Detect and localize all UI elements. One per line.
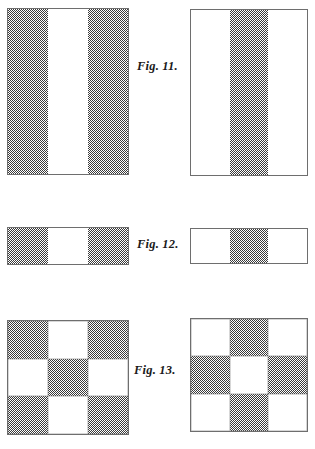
fig12-left-panel-cell-0-shaded — [8, 228, 48, 264]
fig13-left-panel-cell-2-shaded — [88, 321, 128, 359]
fig11-right-panel-cell-1-shaded — [230, 10, 269, 175]
fig12-left-panel-cell-1-white — [48, 228, 88, 264]
fig12-left-panel-cell-2-shaded — [88, 228, 128, 264]
fig11-right-panel-cell-2-white — [268, 10, 307, 175]
fig13-left-panel-cell-5-white — [88, 359, 128, 397]
fig12-right-panel-cell-0-white — [191, 229, 230, 263]
fig13-right-panel-cell-5-shaded — [268, 356, 307, 393]
fig13-right-panel-cell-0-white — [191, 319, 230, 356]
fig11-left-panel-cell-1-white — [48, 9, 88, 174]
figure-caption-1: Fig. 11. — [137, 60, 178, 73]
fig12-right-panel-cell-1-shaded — [230, 229, 269, 263]
fig13-left-panel — [7, 320, 129, 435]
fig11-right-panel-cell-0-white — [191, 10, 230, 175]
fig13-right-panel-cell-6-white — [191, 394, 230, 431]
figure-caption-2: Fig. 12. — [137, 238, 179, 251]
fig12-right-panel — [190, 228, 308, 264]
fig12-left-panel — [7, 227, 129, 265]
figure-plate: Fig. 11.Fig. 12.Fig. 13. — [0, 0, 315, 449]
fig13-right-panel-cell-2-white — [268, 319, 307, 356]
fig12-right-panel-cell-2-white — [268, 229, 307, 263]
fig11-left-panel — [7, 8, 129, 175]
fig13-right-panel-cell-1-shaded — [230, 319, 269, 356]
fig13-right-panel-cell-8-white — [268, 394, 307, 431]
figure-caption-3: Fig. 13. — [134, 364, 176, 377]
fig13-left-panel-cell-8-shaded — [88, 396, 128, 434]
fig13-left-panel-cell-4-shaded — [48, 359, 88, 397]
fig13-right-panel-cell-7-shaded — [230, 394, 269, 431]
fig11-left-panel-cell-2-shaded — [88, 9, 128, 174]
fig11-right-panel — [190, 9, 308, 176]
fig13-left-panel-cell-0-shaded — [8, 321, 48, 359]
fig13-right-panel-cell-4-white — [230, 356, 269, 393]
fig13-right-panel-cell-3-shaded — [191, 356, 230, 393]
fig11-left-panel-cell-0-shaded — [8, 9, 48, 174]
fig13-right-panel — [190, 318, 308, 432]
fig13-left-panel-cell-3-white — [8, 359, 48, 397]
fig13-left-panel-cell-6-shaded — [8, 396, 48, 434]
fig13-left-panel-cell-7-white — [48, 396, 88, 434]
fig13-left-panel-cell-1-white — [48, 321, 88, 359]
